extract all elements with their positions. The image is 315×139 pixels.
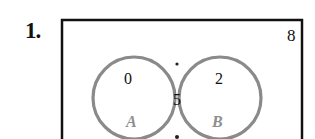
only-b-count: 2 <box>215 70 223 87</box>
venn-diagram: 8 0 5 2 A B <box>0 0 315 139</box>
intersection-point-bottom <box>175 135 179 139</box>
universe-count: 8 <box>287 26 296 45</box>
set-b-label: B <box>211 113 223 130</box>
intersection-point-top <box>175 62 178 65</box>
only-a-count: 0 <box>124 70 132 87</box>
intersection-count: 5 <box>173 91 181 108</box>
set-a-label: A <box>125 113 137 130</box>
